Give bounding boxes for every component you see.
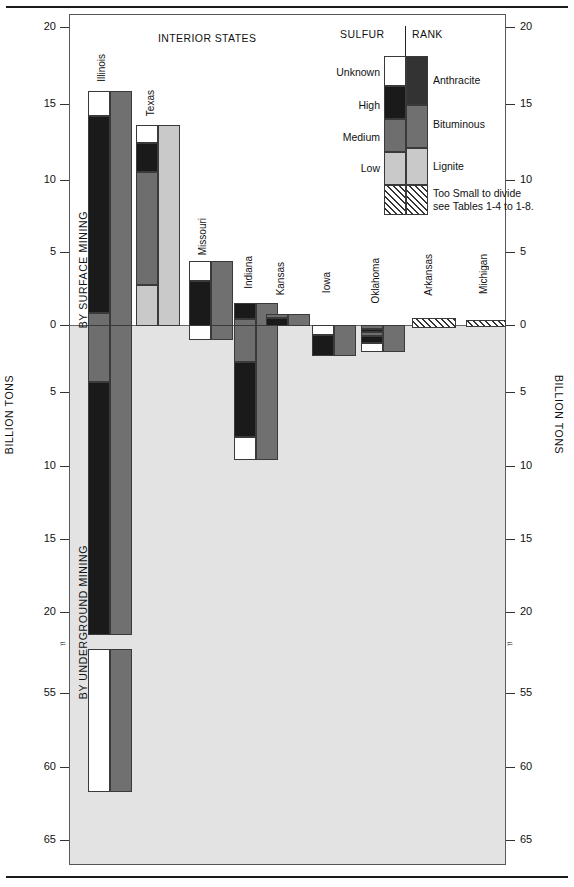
bar-texas-surface-sulfur-low[interactable] — [136, 285, 158, 326]
ticklabel-right-0: 0 — [520, 319, 526, 330]
bar-iowa-underground-sulfur-high[interactable] — [312, 335, 334, 356]
tick-right-0 — [506, 325, 515, 326]
bar-missouri-underground-sulfur-unknown[interactable] — [189, 325, 211, 340]
bar-indiana-underground-sulfur-high[interactable] — [234, 362, 256, 437]
tick-right-10a — [506, 180, 515, 181]
legend-swatch-high — [384, 86, 406, 119]
tick-right-10b — [506, 466, 515, 467]
bar-illinois-underground-sulfur-medium[interactable] — [88, 325, 110, 382]
bar-illinois-underground-sulfur-high[interactable] — [88, 382, 110, 635]
legend-label-medium: Medium — [332, 131, 380, 143]
frame-bottom-rule — [6, 876, 568, 878]
ticklabel-left-5b: 5 — [22, 386, 56, 397]
tick-left-10b — [60, 466, 69, 467]
tick-left-65 — [60, 840, 69, 841]
legend-header-rank: RANK — [412, 28, 443, 40]
bar-texas-surface-sulfur-unknown[interactable] — [136, 125, 158, 143]
tick-left-5b — [60, 392, 69, 393]
ticklabel-right-20b: 20 — [520, 606, 532, 617]
bar-arkansas-too-small[interactable] — [412, 318, 456, 328]
right-axis-spine — [505, 14, 506, 865]
bar-illinois-underground-sulfur-unknown[interactable] — [88, 649, 110, 792]
bar-indiana-surface-sulfur-high[interactable] — [234, 303, 256, 319]
ticklabel-left-55: 55 — [22, 687, 56, 698]
bar-label-missouri: Missouri — [197, 218, 208, 255]
bar-texas-surface-rank-lignite[interactable] — [158, 125, 180, 326]
ticklabel-right-10b: 10 — [520, 460, 532, 471]
bar-label-illinois: Illinois — [96, 54, 107, 82]
bar-label-michigan: Michigan — [478, 254, 489, 294]
underground-shaded-region — [70, 326, 505, 864]
bar-label-texas: Texas — [145, 90, 156, 116]
ticklabel-left-15a: 15 — [22, 98, 56, 109]
tick-right-55 — [506, 693, 515, 694]
tick-left-0 — [60, 325, 69, 326]
bar-texas-surface-sulfur-high[interactable] — [136, 143, 158, 172]
ticklabel-left-10a: 10 — [22, 174, 56, 185]
bar-iowa-underground-rank-bituminous[interactable] — [334, 325, 356, 356]
bar-indiana-underground-sulfur-medium[interactable] — [234, 325, 256, 362]
tick-right-20a — [506, 27, 515, 28]
tick-right-60 — [506, 767, 515, 768]
ticklabel-left-20a: 20 — [22, 21, 56, 32]
ticklabel-right-5b: 5 — [520, 386, 526, 397]
legend-swatch-medium — [384, 119, 406, 152]
bar-illinois-underground-rank-bituminous-upper[interactable] — [110, 325, 132, 635]
tick-right-5a — [506, 252, 515, 253]
ticklabel-left-15b: 15 — [22, 533, 56, 544]
legend-swatch-too-small-rank — [406, 185, 428, 215]
tick-left-10a — [60, 180, 69, 181]
bar-missouri-surface-rank-bituminous[interactable] — [211, 261, 233, 326]
legend-divider-line — [405, 26, 406, 56]
bar-kansas-surface-rank-bituminous[interactable] — [288, 314, 310, 326]
bar-iowa-underground-sulfur-unknown[interactable] — [312, 325, 334, 335]
bar-oklahoma-underground-sulfur-high-2[interactable] — [361, 336, 383, 343]
tick-right-65 — [506, 840, 515, 841]
tick-right-20b — [506, 612, 515, 613]
y-axis-label-right: BILLION TONS — [553, 375, 565, 454]
chart-page: 20 15 10 5 0 5 10 15 20 55 60 65 ≈ ≈ 20 … — [0, 0, 574, 887]
legend-swatch-low — [384, 152, 406, 185]
legend-swatch-anthracite — [406, 56, 428, 105]
legend-note-too-small: Too Small to divide see Tables 1-4 to 1-… — [433, 187, 534, 213]
tick-left-15b — [60, 539, 69, 540]
bar-oklahoma-underground-sulfur-unknown[interactable] — [361, 343, 383, 352]
chart-title: INTERIOR STATES — [158, 32, 256, 44]
axis-break-left: ≈ — [59, 639, 66, 650]
bar-missouri-underground-rank-bituminous[interactable] — [211, 325, 233, 340]
bar-illinois-surface-sulfur-unknown[interactable] — [88, 91, 110, 116]
tick-right-5b — [506, 392, 515, 393]
tick-left-15a — [60, 104, 69, 105]
bar-indiana-underground-rank-bituminous[interactable] — [256, 325, 278, 460]
ticklabel-right-60: 60 — [520, 761, 532, 772]
tick-left-20a — [60, 27, 69, 28]
bar-illinois-surface-sulfur-high[interactable] — [88, 116, 110, 313]
legend-swatch-lignite — [406, 148, 428, 185]
bar-texas-surface-sulfur-medium[interactable] — [136, 172, 158, 285]
left-axis-spine — [69, 14, 70, 865]
ticklabel-left-0: 0 — [22, 319, 56, 330]
bar-indiana-underground-sulfur-unknown[interactable] — [234, 437, 256, 460]
ticklabel-right-20a: 20 — [520, 21, 532, 32]
bar-missouri-surface-sulfur-high[interactable] — [189, 281, 211, 326]
ticklabel-left-5a: 5 — [22, 246, 56, 257]
ticklabel-right-65: 65 — [520, 834, 532, 845]
bar-label-kansas: Kansas — [275, 262, 286, 295]
legend-label-anthracite: Anthracite — [433, 74, 480, 86]
axis-break-right: ≈ — [506, 639, 513, 650]
bar-missouri-surface-sulfur-unknown[interactable] — [189, 261, 211, 281]
ticklabel-right-15b: 15 — [520, 533, 532, 544]
bar-illinois-surface-rank-bituminous[interactable] — [110, 91, 132, 326]
bar-oklahoma-underground-rank-bituminous[interactable] — [383, 325, 405, 352]
bar-label-iowa: Iowa — [321, 272, 332, 293]
legend-label-bituminous: Bituminous — [433, 118, 485, 130]
bar-michigan-too-small[interactable] — [466, 320, 506, 327]
legend-label-high: High — [336, 99, 380, 111]
bar-label-indiana: Indiana — [243, 256, 254, 289]
bar-kansas-surface-sulfur-high[interactable] — [266, 318, 288, 326]
ticklabel-right-10a: 10 — [520, 174, 532, 185]
legend-label-lignite: Lignite — [433, 160, 464, 172]
bar-label-oklahoma: Oklahoma — [370, 258, 381, 304]
legend-swatch-unknown — [384, 56, 406, 86]
bar-illinois-underground-rank-bituminous-lower[interactable] — [110, 649, 132, 792]
